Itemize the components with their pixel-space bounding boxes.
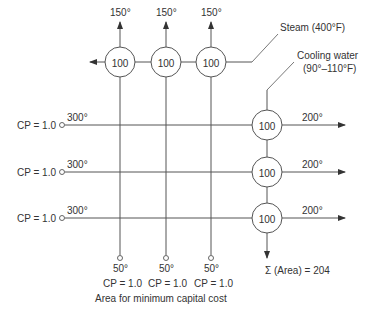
- cold-stream-2-outlet-temp: 150°: [156, 7, 177, 18]
- cold-stream-3-cp: CP = 1.0: [194, 278, 233, 289]
- hot-stream-2-outlet-temp: 200°: [302, 159, 323, 170]
- diagram-caption: Area for minimum capital cost: [95, 293, 227, 304]
- hot-stream-2-cp: CP = 1.0: [17, 167, 56, 178]
- heater-3: 100: [196, 47, 226, 77]
- cooler-3: 100: [252, 203, 282, 233]
- heater-1: 100: [105, 47, 135, 77]
- cold-stream-1-cp: CP = 1.0: [103, 278, 142, 289]
- hot-stream-2-inlet-temp: 300°: [67, 159, 88, 170]
- hot-stream-1: [60, 123, 346, 128]
- hot-stream-3-inlet-temp: 300°: [67, 205, 88, 216]
- cooler-1: 100: [252, 110, 282, 140]
- svg-text:100: 100: [112, 58, 129, 69]
- hot-stream-3-outlet-temp: 200°: [302, 205, 323, 216]
- svg-text:100: 100: [259, 168, 276, 179]
- cold-stream-1-inlet-temp: 50°: [113, 263, 128, 274]
- cold-stream-2-cp: CP = 1.0: [148, 278, 187, 289]
- cooling-water-leader-line: [267, 62, 294, 90]
- heater-2: 100: [151, 47, 181, 77]
- cold-stream-3-outlet-temp: 150°: [201, 7, 222, 18]
- svg-text:100: 100: [259, 214, 276, 225]
- hot-stream-3-cp: CP = 1.0: [17, 213, 56, 224]
- hot-stream-3: [60, 216, 346, 221]
- hot-stream-1-inlet-temp: 300°: [67, 112, 88, 123]
- hot-stream-1-outlet-temp: 200°: [302, 112, 323, 123]
- cold-stream-3-inlet-temp: 50°: [204, 263, 219, 274]
- svg-text:100: 100: [259, 121, 276, 132]
- steam-label: Steam (400°F): [280, 22, 345, 33]
- svg-text:100: 100: [158, 58, 175, 69]
- total-area-label: Σ (Area) = 204: [265, 265, 330, 276]
- hot-stream-2: [60, 170, 346, 175]
- svg-text:100: 100: [203, 58, 220, 69]
- cold-stream-2-inlet-temp: 50°: [159, 263, 174, 274]
- cooler-2: 100: [252, 157, 282, 187]
- cooling-water-label: Cooling water: [297, 50, 359, 61]
- cold-stream-1-outlet-temp: 150°: [110, 7, 131, 18]
- heat-exchanger-network-diagram: Steam (400°F) 150° 150° 150° CP = 1.0 30…: [0, 0, 375, 315]
- steam-leader-line: [252, 34, 278, 62]
- cooling-water-temp-range: (90°–110°F): [303, 63, 356, 74]
- hot-stream-1-cp: CP = 1.0: [17, 120, 56, 131]
